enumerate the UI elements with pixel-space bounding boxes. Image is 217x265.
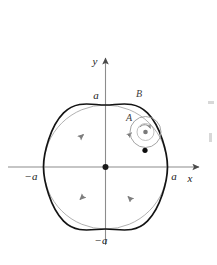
y-axis-label: y [92,55,98,67]
rotation-direction-arrow [140,125,151,129]
direction-arrow-lower-left [80,196,84,200]
x-axis-label: x [187,172,193,184]
origin-dot [103,164,109,170]
figure-container: x y a −a −a a A B [0,0,217,265]
tracing-point [142,148,147,153]
page-edge-artifact-bottom [209,133,212,142]
x-positive-tick-label: a [171,170,177,182]
y-negative-tick-label: −a [95,234,108,246]
y-positive-tick-label: a [93,89,99,101]
astroid-diagram-svg: x y a −a −a a A B [0,0,217,265]
x-negative-tick-label: −a [25,170,38,182]
rolling-circle-center-dot [143,130,148,135]
direction-arrow-lower-right [128,197,132,201]
direction-arrow-upper-left [80,135,84,138]
rolling-circle-label-A: A [125,112,133,123]
fixed-circle-label-B: B [136,88,142,99]
page-edge-artifact-top [208,101,214,104]
